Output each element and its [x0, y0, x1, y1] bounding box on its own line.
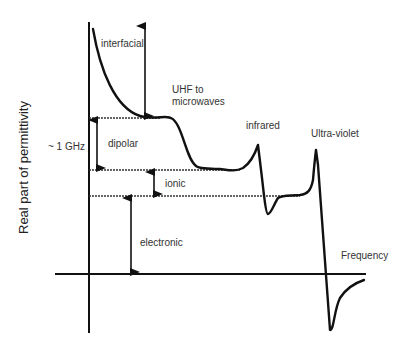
y-axis-label: Real part of permittivity	[16, 101, 31, 234]
uhf-label-line1: UHF to	[172, 84, 204, 96]
ultraviolet-label: Ultra-violet	[311, 128, 359, 140]
ionic-label: ionic	[165, 178, 186, 190]
electronic-label: electronic	[140, 237, 183, 249]
permittivity-curve	[93, 29, 364, 330]
dipolar-label: dipolar	[108, 138, 138, 150]
permittivity-diagram	[0, 0, 404, 356]
x-axis-label: Frequency	[341, 250, 388, 262]
uhf-label-line2: microwaves	[172, 96, 225, 108]
interfacial-label: interfacial	[101, 38, 144, 50]
frequency-marker-label: ~ 1 GHz	[48, 141, 85, 153]
infrared-label: infrared	[246, 120, 280, 132]
